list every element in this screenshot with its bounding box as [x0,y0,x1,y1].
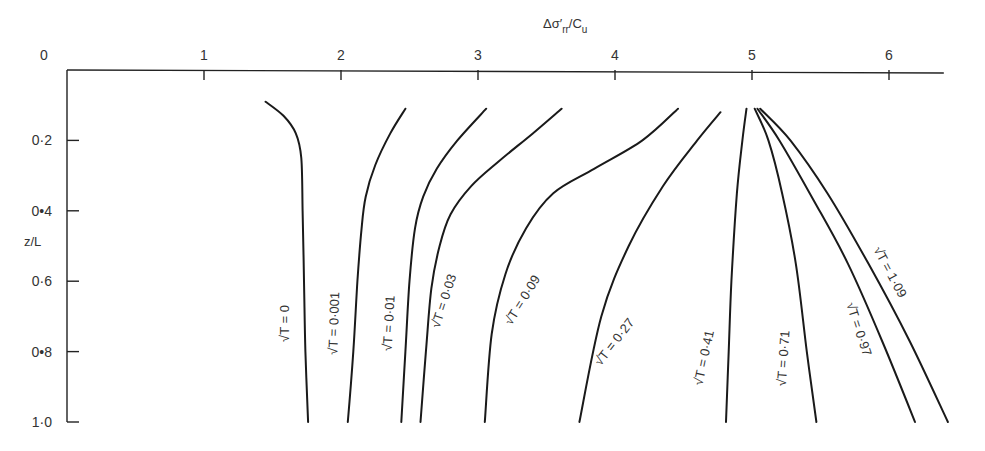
curve-label: √T = 0·41 [691,329,717,387]
x-tick-label: 4 [611,47,619,63]
x-tick-label: 2 [337,47,345,63]
chart: 0123456 0·20•40·60•81·0 √T = 0√T = 0·001… [0,0,985,451]
curve-series-3 [421,109,562,422]
y-tick-label: 0•4 [32,203,53,219]
curve-label: √T = 0·001 [325,292,342,355]
curve-label: √T = 0·09 [501,272,543,327]
x-axis-title: Δσ′rr/Cu [543,16,587,35]
curve-label: √T = 0·97 [843,300,874,358]
curve-series-0 [266,102,309,422]
y-tick-label: 0•8 [32,344,53,360]
x-tick-label: 1 [200,47,208,63]
x-tick-label: 6 [885,47,893,63]
curves [266,102,948,422]
curve-series-6 [726,109,747,422]
x-axis-line [67,70,944,73]
curve-series-1 [348,109,406,422]
x-tick-label: 3 [474,47,482,63]
y-axis: 0·20•40·60•81·0 [32,70,79,430]
curve-series-4 [485,109,678,422]
curve-series-2 [401,109,486,422]
curve-label: √T = 0·71 [774,330,793,387]
curve-label: √T = 0·27 [591,315,637,368]
y-tick-label: 0·6 [32,273,52,289]
x-axis: 0123456 [40,47,944,80]
curve-label: √T = 0·01 [380,295,398,351]
y-tick-label: 1·0 [32,414,52,430]
curve-labels: √T = 0√T = 0·001√T = 0·01√T = 0·03√T = 0… [277,244,910,387]
y-axis-title: z/L [24,234,41,249]
y-tick-label: 0·2 [32,132,52,148]
curve-label: √T = 1·09 [871,244,910,300]
x-tick-label: 5 [748,47,756,63]
curve-label: √T = 0 [277,305,292,342]
x-tick-label: 0 [40,47,48,63]
